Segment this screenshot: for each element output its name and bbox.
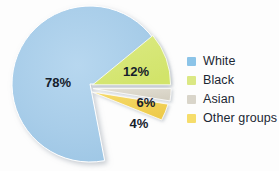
- legend-swatch-white-icon: [187, 57, 196, 66]
- legend-item-white[interactable]: White: [187, 52, 279, 71]
- slice-label-black: 12%: [123, 64, 149, 79]
- legend-label-white: White: [203, 55, 235, 68]
- slice-label-other-groups: 4%: [130, 116, 149, 131]
- slice-label-white: 78%: [45, 75, 71, 90]
- slice-label-asian: 6%: [137, 95, 156, 110]
- legend-label-other-groups: Other groups: [203, 112, 277, 125]
- chart-legend: White Black Asian Other groups: [187, 52, 279, 128]
- legend-item-asian[interactable]: Asian: [187, 90, 279, 109]
- legend-item-black[interactable]: Black: [187, 71, 279, 90]
- legend-label-asian: Asian: [203, 93, 235, 106]
- pie-chart-figure: 78% 12% 6% 4% White Black Asian Other gr…: [0, 0, 279, 171]
- legend-item-other-groups[interactable]: Other groups: [187, 109, 279, 128]
- pie-chart-graphic: 78% 12% 6% 4%: [0, 0, 190, 171]
- legend-swatch-black-icon: [187, 76, 196, 85]
- legend-label-black: Black: [203, 74, 234, 87]
- legend-swatch-other-groups-icon: [187, 114, 196, 123]
- legend-swatch-asian-icon: [187, 95, 196, 104]
